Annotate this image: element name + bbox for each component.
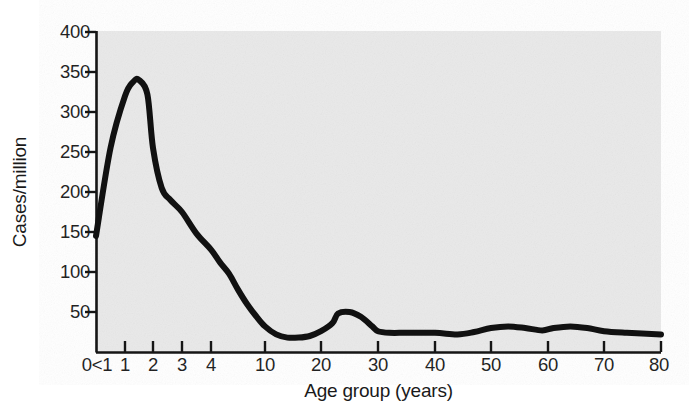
y-axis-ticks	[85, 32, 96, 312]
chart-figure: Cases/million 400 350 300 250 200 150 10…	[0, 0, 689, 414]
chart-canvas	[0, 0, 689, 414]
paper-grain-overlay	[96, 31, 661, 352]
